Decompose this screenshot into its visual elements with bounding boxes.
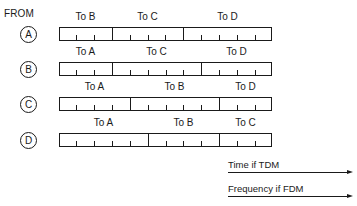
subchannel-tick [201,105,202,110]
time-axis-label: Time if TDM [228,159,279,170]
subchannel-tick [148,105,149,110]
subchannel-tick [94,70,95,75]
subchannel-tick [219,70,220,75]
segment-label: To D [217,11,238,22]
segment-label: To B [173,117,193,128]
subchannel-tick [183,141,184,146]
segment-divider [112,27,113,41]
subchannel-tick [112,105,113,110]
segment-divider [219,133,220,147]
segment-divider [148,133,149,147]
frequency-axis-label: Frequency if FDM [228,183,304,194]
segment-label: To A [85,81,104,92]
subchannel-tick [94,35,95,40]
subchannel-tick [76,105,77,110]
subchannel-tick [183,105,184,110]
subchannel-tick [237,105,238,110]
subchannel-tick [112,141,113,146]
segment-label: To A [94,117,113,128]
segment-label: To C [235,117,256,128]
subchannel-tick [201,35,202,40]
subchannel-tick [166,105,167,110]
subchannel-tick [165,35,166,40]
subchannel-tick [76,141,77,146]
subchannel-tick [255,141,256,146]
subchannel-tick [130,35,131,40]
segment-label: To D [226,46,247,57]
channel-bar-a [59,27,272,41]
subchannel-tick [130,141,131,146]
subchannel-tick [237,70,238,75]
source-node-d: D [20,132,37,149]
segment-divider [201,62,202,76]
from-heading: FROM [4,8,34,19]
channel-bar-b [59,62,272,76]
right-arrow-icon [228,196,348,197]
subchannel-tick [219,35,220,40]
segment-divider [219,97,220,111]
subchannel-tick [130,70,131,75]
subchannel-tick [148,70,149,75]
subchannel-tick [76,70,77,75]
subchannel-tick [255,35,256,40]
subchannel-tick [255,70,256,75]
subchannel-tick [166,141,167,146]
source-node-b: B [20,61,37,78]
subchannel-tick [76,35,77,40]
segment-label: To D [235,81,256,92]
subchannel-tick [201,141,202,146]
source-node-a: A [20,26,37,43]
subchannel-tick [255,105,256,110]
subchannel-tick [237,141,238,146]
segment-label: To B [164,81,184,92]
segment-label: To B [75,11,95,22]
subchannel-tick [166,70,167,75]
channel-bar-d [59,133,272,147]
right-arrow-icon [228,172,348,173]
segment-label: To C [137,11,158,22]
segment-label: To A [76,46,95,57]
subchannel-tick [94,105,95,110]
subchannel-tick [94,141,95,146]
subchannel-tick [148,35,149,40]
segment-divider [112,62,113,76]
segment-label: To C [146,46,167,57]
subchannel-tick [237,35,238,40]
segment-divider [183,27,184,41]
channel-bar-c [59,97,272,111]
segment-divider [130,97,131,111]
subchannel-tick [183,70,184,75]
source-node-c: C [20,96,37,113]
